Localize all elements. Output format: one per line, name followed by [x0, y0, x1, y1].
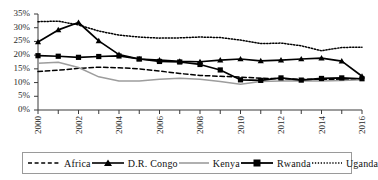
- legend-label-uganda: Uganda: [346, 158, 378, 169]
- y-tick-label: 0%: [6, 104, 30, 114]
- series-africa: [38, 67, 362, 79]
- series-uganda: [38, 21, 362, 51]
- legend-item-rwanda[interactable]: Rwanda: [240, 158, 311, 169]
- square-marker-line-swatch: [240, 158, 274, 168]
- legend-item-kenya[interactable]: Kenya: [178, 158, 240, 169]
- y-tick-label: 15%: [6, 63, 30, 73]
- legend-label-rwanda: Rwanda: [277, 158, 311, 169]
- dotted-line-swatch: [311, 158, 343, 168]
- legend-item-dr-congo[interactable]: D.R. Congo: [91, 158, 178, 169]
- x-tick-label: 2014: [317, 116, 327, 134]
- y-tick-label: 10%: [6, 77, 30, 87]
- legend-item-uganda[interactable]: Uganda: [311, 158, 378, 169]
- legend-item-africa[interactable]: Africa: [27, 158, 91, 169]
- y-tick-label: 35%: [6, 8, 30, 18]
- y-axis: [34, 14, 38, 110]
- x-tick-label: 2006: [155, 116, 165, 134]
- gray-solid-line-swatch: [178, 158, 210, 168]
- x-tick-label: 2000: [33, 116, 43, 134]
- legend-label-africa: Africa: [64, 158, 91, 169]
- dashed-line-swatch: [27, 158, 61, 168]
- x-tick-label: 2002: [74, 116, 84, 134]
- x-tick-label: 2010: [236, 116, 246, 134]
- y-tick-label: 25%: [6, 35, 30, 45]
- triangle-marker-line-swatch: [91, 158, 125, 168]
- y-tick-label: 30%: [6, 22, 30, 32]
- x-tick-label: 2004: [114, 116, 124, 134]
- series-layer: [35, 19, 365, 84]
- x-tick-label: 2012: [276, 116, 286, 134]
- y-tick-label: 5%: [6, 90, 30, 100]
- legend-label-kenya: Kenya: [213, 158, 240, 169]
- chart-legend: Africa D.R. Congo Kenya Rwanda: [22, 152, 352, 174]
- y-tick-label: 20%: [6, 49, 30, 59]
- legend-label-dr-congo: D.R. Congo: [128, 158, 178, 169]
- x-tick-label: 2008: [195, 116, 205, 134]
- x-tick-label: 2016: [357, 116, 367, 134]
- x-axis: [38, 110, 362, 114]
